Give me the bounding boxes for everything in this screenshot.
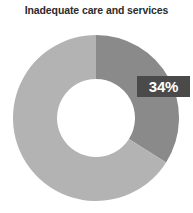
value-callout-badge: 34% (137, 76, 190, 97)
chart-container: Inadequate care and services 34% (0, 0, 193, 213)
donut-chart (13, 35, 179, 201)
value-callout-label: 34% (149, 79, 178, 94)
donut-chart-svg (13, 35, 179, 201)
donut-slice-inadequate-care-and-services[interactable] (96, 35, 179, 162)
donut-slices (13, 35, 179, 201)
chart-title: Inadequate care and services (0, 4, 193, 17)
